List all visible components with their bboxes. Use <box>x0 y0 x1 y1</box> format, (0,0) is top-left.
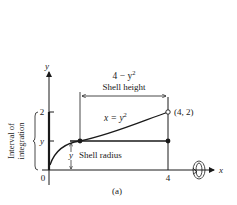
shell-height-label: Shell height <box>102 82 146 92</box>
point-4-2 <box>166 110 170 114</box>
curve-equation: x = y2 <box>103 111 127 123</box>
x-axis-label: x <box>218 165 223 175</box>
shell-height-expression: 4 − y2 <box>113 69 136 81</box>
svg-text:Interval of: Interval of <box>6 123 16 159</box>
shell-radius-label: Shell radius <box>79 150 122 160</box>
x-tick-label-4: 4 <box>166 173 171 183</box>
interval-of-integration-label: Interval of integration <box>6 122 26 160</box>
point-label: (4, 2) <box>174 107 194 117</box>
shell-method-diagram: y x 0 2 y 4 Interval of integration (4, … <box>0 0 237 205</box>
shell-radius-symbol: y <box>68 150 73 160</box>
origin-label: 0 <box>41 173 46 183</box>
interval-brace <box>33 112 38 170</box>
svg-text:integration: integration <box>16 122 26 160</box>
y-axis-label: y <box>44 61 49 71</box>
figure-caption: (a) <box>112 186 122 196</box>
y-tick-label-y: y <box>39 136 44 146</box>
y-tick-label-2: 2 <box>40 107 45 117</box>
